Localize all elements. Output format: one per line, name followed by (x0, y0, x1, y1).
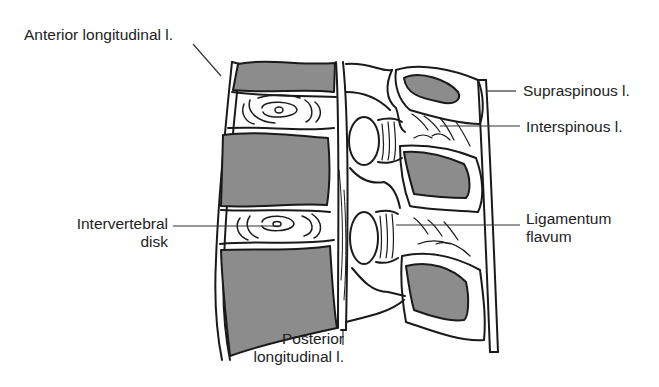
label-supraspinous: Supraspinous l. (523, 82, 630, 100)
label-ligamentum-line2: flavum (526, 228, 572, 246)
posterior-longitudinal-ligament (336, 62, 339, 328)
label-ligamentum-line1: Ligamentum (526, 210, 611, 228)
disk-1-rings (243, 95, 321, 124)
label-anterior-longitudinal: Anterior longitudinal l. (24, 26, 173, 44)
label-interspinous: Interspinous l. (526, 118, 623, 136)
spine-illustration (0, 0, 659, 387)
leader-anterior (193, 44, 221, 76)
label-posterior-line1: Posterior (236, 330, 344, 348)
vertebral-body-2 (221, 133, 329, 206)
spine-ligament-diagram: Anterior longitudinal l. Supraspinous l.… (0, 0, 659, 387)
label-posterior-line2: longitudinal l. (236, 348, 344, 366)
articular-process-2 (350, 212, 378, 264)
disk-2-rings (237, 214, 320, 240)
label-intervertebral-line2: disk (62, 233, 168, 251)
vertebral-body-1 (233, 62, 335, 92)
articular-process-1 (349, 117, 379, 165)
label-intervertebral-line1: Intervertebral (62, 215, 168, 233)
